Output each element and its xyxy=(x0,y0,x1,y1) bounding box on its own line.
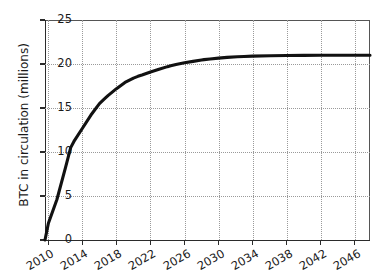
x-tick-label: 2022 xyxy=(125,248,158,274)
chart-figure: 0510152025 20102014201820222026203020342… xyxy=(0,0,378,277)
x-tick-label: 2014 xyxy=(57,248,90,274)
x-tick-mark xyxy=(82,240,83,245)
x-tick-mark xyxy=(286,240,287,245)
x-tick-label: 2026 xyxy=(159,248,192,274)
x-tick-mark xyxy=(150,240,151,245)
x-tick-mark xyxy=(48,240,49,245)
y-axis-label: BTC in circulation (millions) xyxy=(17,25,31,225)
x-tick-mark xyxy=(116,240,117,245)
x-tick-label: 2034 xyxy=(227,248,260,274)
x-tick-label: 2030 xyxy=(193,248,226,274)
x-tick-mark xyxy=(354,240,355,245)
x-tick-mark xyxy=(184,240,185,245)
x-tick-mark xyxy=(218,240,219,245)
x-tick-mark xyxy=(320,240,321,245)
btc-supply-line xyxy=(45,20,370,240)
x-tick-mark xyxy=(252,240,253,245)
x-tick-label: 2010 xyxy=(23,248,56,274)
x-tick-label: 2046 xyxy=(329,248,362,274)
x-tick-label: 2042 xyxy=(295,248,328,274)
x-tick-label: 2018 xyxy=(91,248,124,274)
x-tick-label: 2038 xyxy=(261,248,294,274)
